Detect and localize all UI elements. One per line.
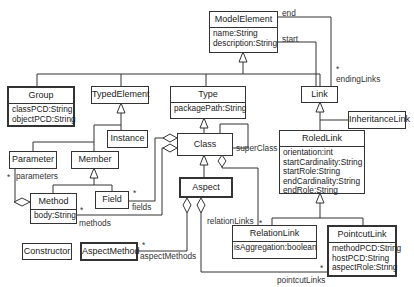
class-parameter: Parameter xyxy=(9,151,57,169)
class-name: RoledLink xyxy=(280,131,364,146)
class-name: Group xyxy=(9,88,73,103)
class-attributes: classPCD:String objectPCD:String xyxy=(9,103,73,126)
class-roled-link: RoledLink orientation:int startCardinali… xyxy=(279,130,365,194)
class-relation-link: RelationLink isAggregation:boolean xyxy=(232,225,317,259)
class-attributes: orientation:int startCardinality:String … xyxy=(280,146,364,198)
attribute: objectPCD:String xyxy=(12,115,70,125)
class-group: Group classPCD:String objectPCD:String xyxy=(7,86,75,127)
class-attributes: body:String xyxy=(31,209,76,223)
label-aspect-methods-multiplicity: * xyxy=(142,240,145,250)
attribute: description:String xyxy=(213,39,274,49)
label-methods: methods xyxy=(79,218,111,228)
label-relation-links: relationLinks xyxy=(207,216,254,226)
class-name: AspectMethod xyxy=(82,244,136,259)
label-fields: fields xyxy=(132,202,151,212)
attribute: isAggregation:boolean xyxy=(234,243,313,253)
class-field: Field xyxy=(95,191,129,209)
class-attributes: packagePath:String xyxy=(171,102,245,116)
class-name: Aspect xyxy=(181,179,231,196)
attribute: packagePath:String xyxy=(174,104,242,114)
label-parameters: parameters xyxy=(16,171,58,181)
label-ending-links-multiplicity: * xyxy=(336,64,339,74)
label-methods-multiplicity: * xyxy=(80,205,83,215)
class-name: PointcutLink xyxy=(329,227,395,242)
class-instance: Instance xyxy=(107,130,148,148)
label-aspect-methods: aspectMethods xyxy=(140,251,196,261)
class-constructor: Constructor xyxy=(22,243,72,260)
class-name: Type xyxy=(171,87,245,102)
class-name: Class xyxy=(178,134,232,155)
label-fields-multiplicity: * xyxy=(133,188,136,198)
class-class: Class xyxy=(177,133,233,156)
class-name: Method xyxy=(31,194,76,209)
label-end: end xyxy=(282,8,296,18)
label-relation-links-multiplicity: * xyxy=(259,218,262,228)
label-pointcut-links: pointcutLinks xyxy=(277,275,325,285)
class-aspect: Aspect xyxy=(179,177,233,198)
label-parameters-multiplicity: * xyxy=(7,172,10,182)
class-inheritance-link: InheritanceLink xyxy=(348,111,406,129)
attribute: endRole:String xyxy=(283,186,361,196)
class-attributes: methodPCD:String hostPCD:String aspectRo… xyxy=(329,242,395,275)
class-name: Instance xyxy=(108,131,147,146)
class-name: Member xyxy=(72,152,118,167)
label-start: start xyxy=(282,34,298,44)
class-member: Member xyxy=(71,151,119,169)
label-ending-links: endingLinks xyxy=(336,74,380,84)
label-pointcut-links-multiplicity: * xyxy=(320,263,323,273)
class-name: InheritanceLink xyxy=(349,112,405,127)
attribute: body:String xyxy=(34,211,73,221)
class-pointcut-link: PointcutLink methodPCD:String hostPCD:St… xyxy=(327,225,397,277)
label-super-class: superClass xyxy=(236,143,278,153)
class-type: Type packagePath:String xyxy=(170,86,246,119)
class-name: Constructor xyxy=(23,244,71,259)
class-aspect-method: AspectMethod xyxy=(80,242,138,261)
class-link: Link xyxy=(301,86,338,103)
class-model-element: ModelElement name:String description:Str… xyxy=(209,11,278,53)
class-typed-element: TypedElement xyxy=(91,86,149,104)
class-name: Link xyxy=(302,87,337,102)
class-name: Field xyxy=(96,192,128,207)
class-attributes: name:String description:String xyxy=(210,27,277,50)
attribute: aspectRole:String xyxy=(332,263,392,273)
class-attributes: isAggregation:boolean xyxy=(233,241,316,255)
class-name: RelationLink xyxy=(233,226,316,241)
class-name: TypedElement xyxy=(92,87,148,102)
class-name: Parameter xyxy=(10,152,56,167)
class-name: ModelElement xyxy=(210,12,277,27)
class-method: Method body:String xyxy=(30,193,77,224)
